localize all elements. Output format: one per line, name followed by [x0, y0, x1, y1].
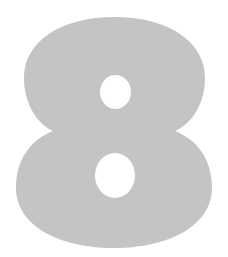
- eight-icon: [0, 0, 228, 257]
- numeral-eight-graphic: 8: [0, 0, 228, 257]
- eight-glyph-shape: [16, 17, 212, 248]
